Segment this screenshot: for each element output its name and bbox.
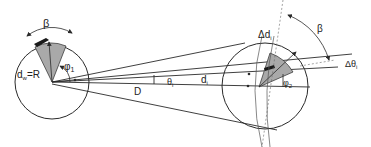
geometry-diagram: β dw=R φ1 D θi di Δdi β Δθi φ2: [0, 0, 371, 147]
label-delta-theta-i: Δθi: [345, 59, 357, 70]
ray-2: [52, 67, 338, 82]
label-phi2: φ2: [283, 78, 293, 89]
beta-arc-left: [27, 27, 72, 36]
label-dw: dw=R: [17, 69, 40, 81]
ray-lines: [52, 43, 352, 130]
label-beta-right: β: [317, 23, 323, 34]
tangent-top: [52, 43, 245, 82]
label-phi1: φ1: [64, 61, 74, 73]
label-d-i: di: [201, 74, 208, 86]
delta-d-arc-2: [267, 36, 274, 147]
label-beta-left: β: [43, 17, 49, 29]
delta-d-arc-1: [255, 36, 262, 147]
ray-D: [52, 82, 260, 86]
label-theta-i: θi: [167, 77, 173, 88]
diagram-canvas: β dw=R φ1 D θi di Δdi β Δθi φ2: [0, 0, 371, 147]
label-delta-d-i: Δdi: [258, 29, 272, 41]
label-D: D: [134, 86, 141, 97]
